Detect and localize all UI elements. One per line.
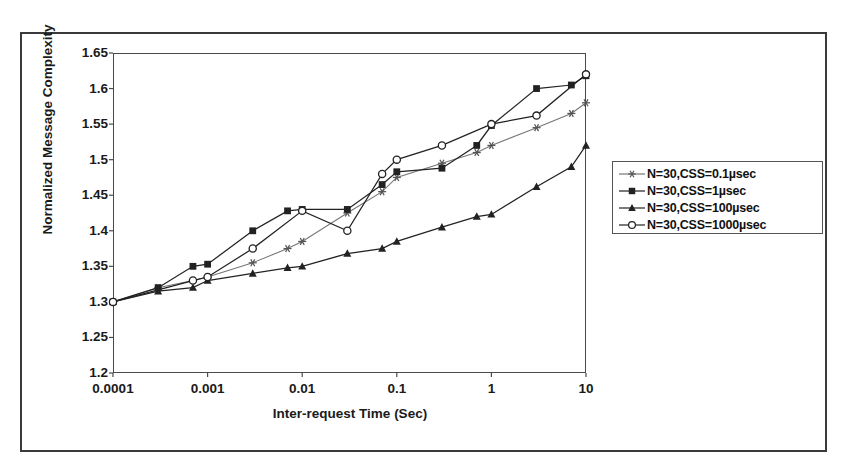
x-tick-label: 0.001 [173,382,243,396]
y-tick-label: 1.35 [56,259,108,273]
legend-label: N=30,CSS=100µsec [647,201,759,215]
y-tick-label: 1.5 [56,153,108,167]
y-axis-tick-labels: 1.21.251.31.351.41.451.51.551.61.65 [52,0,108,474]
chart-canvas: 1.21.251.31.351.41.451.51.551.61.65 0.00… [0,0,862,474]
legend-marker-triangle-filled-icon [617,200,647,216]
x-tick-label: 0.0001 [78,382,148,396]
y-tick-label: 1.25 [56,330,108,344]
legend-label: N=30,CSS=1µsec [647,184,746,198]
y-axis-title: Normalized Message Complexity [40,15,55,245]
y-tick-label: 1.4 [56,224,108,238]
legend-marker-star-icon [617,166,647,182]
x-tick-label: 0.01 [267,382,337,396]
plot-area-border [113,53,586,373]
figure-root: 1.21.251.31.351.41.451.51.551.61.65 0.00… [0,0,862,474]
y-tick-label: 1.65 [56,46,108,60]
legend-label: N=30,CSS=0.1µsec [647,167,756,181]
legend-marker-square-filled-icon [617,183,647,199]
y-tick-label: 1.6 [56,82,108,96]
x-tick-label: 10 [551,382,621,396]
y-tick-label: 1.45 [56,188,108,202]
legend-label: N=30,CSS=1000µsec [647,218,766,232]
legend-item: N=30,CSS=1000µsec [617,216,822,233]
legend-item: N=30,CSS=0.1µsec [617,165,822,182]
x-axis-title: Inter-request Time (Sec) [180,406,520,421]
y-tick-label: 1.55 [56,117,108,131]
legend-item: N=30,CSS=100µsec [617,199,822,216]
legend-item: N=30,CSS=1µsec [617,182,822,199]
x-tick-label: 1 [456,382,526,396]
legend-marker-circle-open-icon [617,217,647,233]
y-tick-label: 1.3 [56,295,108,309]
y-tick-label: 1.2 [56,366,108,380]
x-tick-label: 0.1 [362,382,432,396]
chart-legend: N=30,CSS=0.1µsecN=30,CSS=1µsecN=30,CSS=1… [612,161,823,234]
